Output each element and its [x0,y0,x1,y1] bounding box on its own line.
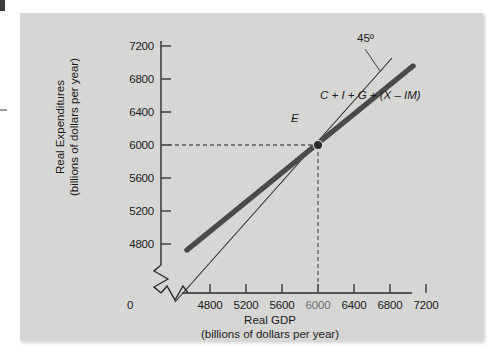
y-axis-title-units: (billions of dollars per year) [67,32,81,222]
x-tick-label-7200: 7200 [414,299,439,311]
y-tick-label-5600: 5600 [110,172,154,184]
x-tick-label-5200: 5200 [234,299,259,311]
scan-artifact-edge [0,109,7,111]
x-tick-label-6800: 6800 [378,299,403,311]
forty-five-degree-label: 45º [357,32,374,44]
y-axis-title: Real Expenditures (billions of dollars p… [53,32,81,222]
origin-label: 0 [127,299,133,311]
y-tick-label-5200: 5200 [110,205,154,217]
x-tick-label-6400: 6400 [342,299,367,311]
x-tick-label-6000: 6000 [306,299,331,311]
y-axis-title-main: Real Expenditures [53,32,67,222]
x-axis-title-units: (billions of dollars per year) [140,327,400,341]
y-axis-break-icon [154,265,168,293]
forty-five-degree-leader [365,49,380,71]
y-tick-label-6800: 6800 [110,73,154,85]
x-tick-label-5600: 5600 [270,299,295,311]
aggregate-expenditure-label: C + I + G + (X – IM) [320,89,421,101]
y-tick-label-4800: 4800 [110,238,154,250]
y-tick-label-7200: 7200 [110,40,154,52]
x-tick-label-4800: 4800 [198,299,223,311]
equilibrium-point-label: E [291,112,299,124]
y-tick-label-6400: 6400 [110,106,154,118]
x-axis-title-main: Real GDP [140,313,400,327]
x-axis-title: Real GDP (billions of dollars per year) [140,313,400,341]
chart-canvas [20,13,483,341]
scan-artifact-corner [0,0,5,11]
equilibrium-point-marker [313,140,322,149]
y-tick-label-6000: 6000 [110,139,154,151]
figure-panel: 7200 6800 6400 6000 5600 5200 4800 4800 … [20,13,483,341]
plot-area: 7200 6800 6400 6000 5600 5200 4800 4800 … [20,13,483,341]
